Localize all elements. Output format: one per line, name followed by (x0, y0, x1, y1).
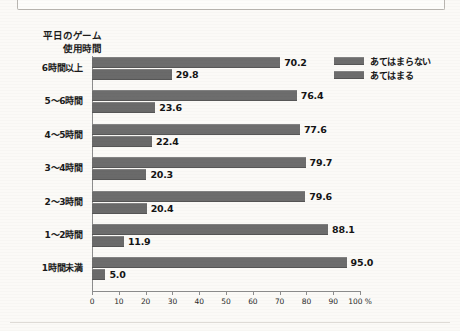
bar (92, 90, 297, 101)
bar-value-label: 88.1 (332, 224, 355, 235)
bar (92, 169, 146, 180)
legend-swatch-icon (334, 57, 364, 65)
bar-chart: 平日のゲーム 使用時間 0102030405060708090100 % 6時間… (0, 0, 460, 331)
x-axis-tick (360, 291, 361, 295)
legend-label: あてはまらない (370, 55, 431, 68)
bar-value-label: 20.4 (151, 203, 174, 214)
bar-group: 1時間未満95.05.0 (92, 257, 360, 281)
plot-area: 6時間以上70.229.85～6時間76.423.64～5時間77.622.43… (92, 57, 360, 291)
bar-value-label: 95.0 (351, 257, 374, 268)
bar-value-label: 22.4 (156, 136, 179, 147)
bar-value-label: 77.6 (304, 124, 327, 135)
x-axis-tick (199, 291, 200, 295)
bar-group: 1～2時間88.111.9 (92, 224, 360, 248)
x-axis-tick-label: 50 (221, 297, 230, 306)
chart-title-line-1: 平日のゲーム (14, 29, 102, 42)
x-axis-tick-label: 90 (329, 297, 338, 306)
category-label: 2～3時間 (44, 197, 83, 207)
bar-value-label: 11.9 (128, 236, 151, 247)
legend-label: あてはまる (370, 69, 414, 82)
x-axis-tick-label: 100 % (348, 297, 371, 306)
bar (92, 102, 155, 113)
bar-group: 4～5時間77.622.4 (92, 124, 360, 148)
chart-title-line-2: 使用時間 (14, 42, 102, 55)
bar (92, 203, 147, 214)
bar (92, 157, 306, 168)
category-label: 5～6時間 (44, 96, 83, 106)
chart-legend: あてはまらない あてはまる (334, 54, 431, 82)
x-axis-tick (280, 291, 281, 295)
x-axis-tick-label: 60 (248, 297, 257, 306)
bar (92, 69, 172, 80)
x-axis-tick-label: 40 (195, 297, 204, 306)
bar-value-label: 70.2 (284, 57, 307, 68)
x-axis-tick-label: 20 (141, 297, 150, 306)
x-axis-tick (146, 291, 147, 295)
legend-item-does-not-apply: あてはまらない (334, 54, 431, 68)
bar-value-label: 29.8 (176, 69, 199, 80)
bar-group: 2～3時間79.620.4 (92, 191, 360, 215)
bar-value-label: 79.7 (310, 157, 333, 168)
legend-item-applies: あてはまる (334, 68, 431, 82)
bar-value-label: 76.4 (301, 90, 324, 101)
category-label: 6時間以上 (42, 63, 83, 73)
bar (92, 191, 305, 202)
scanned-page: 平日のゲーム 使用時間 0102030405060708090100 % 6時間… (0, 0, 460, 331)
bar (92, 136, 152, 147)
bar-value-label: 20.3 (150, 169, 173, 180)
category-label: 1～2時間 (44, 230, 83, 240)
bar (92, 224, 328, 235)
bar-value-label: 79.6 (309, 191, 332, 202)
category-label: 1時間未満 (42, 263, 83, 273)
x-axis-tick (306, 291, 307, 295)
category-label: 3～4時間 (44, 163, 83, 173)
x-axis-tick (92, 291, 93, 295)
bar (92, 257, 347, 268)
bar (92, 57, 280, 68)
x-axis-tick-label: 30 (168, 297, 177, 306)
x-axis-tick-label: 70 (275, 297, 284, 306)
bar-group: 6時間以上70.229.8 (92, 57, 360, 81)
chart-title: 平日のゲーム 使用時間 (14, 29, 102, 55)
bar-group: 3～4時間79.720.3 (92, 157, 360, 181)
bar-value-label: 5.0 (109, 269, 125, 280)
bar-group: 5～6時間76.423.6 (92, 90, 360, 114)
bar (92, 236, 124, 247)
legend-swatch-icon (334, 71, 364, 79)
x-axis-tick (226, 291, 227, 295)
x-axis-tick-label: 80 (302, 297, 311, 306)
x-axis-tick (333, 291, 334, 295)
x-axis-tick-label: 0 (90, 297, 95, 306)
x-axis-tick (119, 291, 120, 295)
x-axis-tick (172, 291, 173, 295)
x-axis-tick (253, 291, 254, 295)
bar-value-label: 23.6 (159, 102, 182, 113)
bar (92, 124, 300, 135)
bar (92, 269, 105, 280)
x-axis-tick-label: 10 (114, 297, 123, 306)
category-label: 4～5時間 (44, 130, 83, 140)
